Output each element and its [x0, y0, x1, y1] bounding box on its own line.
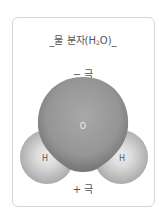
hydrogen-right-label: H: [119, 154, 125, 163]
positive-pole-label: + 극: [0, 181, 166, 196]
oxygen-label: O: [80, 122, 86, 131]
hydrogen-left-label: H: [42, 154, 48, 163]
